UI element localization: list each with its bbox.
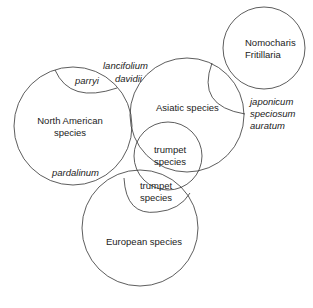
label-line: Fritillaria <box>245 49 296 61</box>
asiatic-label: Asiatic species <box>156 102 219 114</box>
european-label: European species <box>106 236 182 248</box>
trumpet-lower-label: trumpet species <box>131 180 181 204</box>
label-line: trumpet <box>145 144 195 156</box>
label-line: Nomocharis <box>245 37 296 49</box>
label-line: North American <box>20 115 120 127</box>
label-line: species <box>145 156 195 168</box>
label-line: auratum <box>250 120 295 132</box>
parryi-label: parryi <box>75 75 99 87</box>
davidii-label: davidii <box>115 73 142 85</box>
north-american-label: North American species <box>20 115 120 139</box>
lancifolium-label: lancifolium <box>103 60 148 72</box>
label-line: japonicum <box>250 96 295 108</box>
trumpet-upper-label: trumpet species <box>145 144 195 168</box>
label-line: trumpet <box>131 180 181 192</box>
label-line: species <box>20 127 120 139</box>
label-line: species <box>131 192 181 204</box>
pardalinum-label: pardalinum <box>52 167 99 179</box>
nomocharis-label: Nomocharis Fritillaria <box>245 37 296 61</box>
japonicum-group-label: japonicum speciosum auratum <box>250 96 295 132</box>
venn-diagram: North American species parryi lancifoliu… <box>0 0 313 308</box>
label-line: speciosum <box>250 108 295 120</box>
